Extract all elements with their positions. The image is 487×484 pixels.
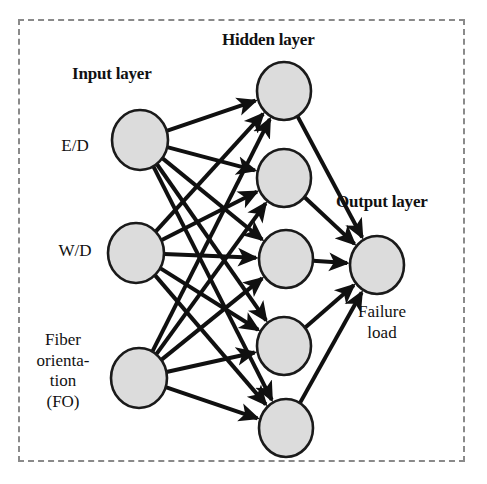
hidden-node-h4 — [257, 317, 311, 375]
input-node-label-ed: E/D — [36, 136, 114, 157]
output-node-o1 — [350, 236, 404, 294]
hidden-layer-title: Hidden layer — [222, 30, 315, 50]
diagram-canvas: Input layer Hidden layer Output layer E/… — [0, 0, 487, 484]
hidden-node-h1 — [257, 62, 311, 120]
input-node-label-wd: W/D — [36, 241, 114, 262]
edges-input-to-hidden — [152, 101, 271, 419]
input-node-i3 — [111, 348, 167, 408]
network-edge — [156, 203, 265, 354]
network-edge — [167, 101, 256, 131]
output-node-label-failure-load: Failureload — [334, 302, 430, 343]
output-layer-title: Output layer — [336, 192, 428, 212]
input-node-i1 — [112, 110, 168, 170]
network-edge — [166, 387, 258, 418]
label-line: load — [334, 323, 430, 344]
hidden-node-h3 — [259, 230, 313, 288]
label-line: (FO) — [22, 392, 104, 413]
input-node-label-fiber-orientation: Fiberorienta-tion(FO) — [22, 330, 104, 413]
input-layer-title: Input layer — [72, 64, 152, 84]
network-edge — [313, 261, 347, 263]
label-line: tion — [22, 371, 104, 392]
label-line: Failure — [334, 302, 430, 323]
label-line: orienta- — [22, 351, 104, 372]
network-edge — [167, 147, 255, 170]
hidden-node-h5 — [259, 399, 313, 457]
network-edge — [166, 352, 254, 371]
hidden-node-h2 — [257, 149, 311, 207]
input-node-i2 — [108, 223, 164, 283]
label-line: Fiber — [22, 330, 104, 351]
network-edge — [164, 254, 256, 258]
